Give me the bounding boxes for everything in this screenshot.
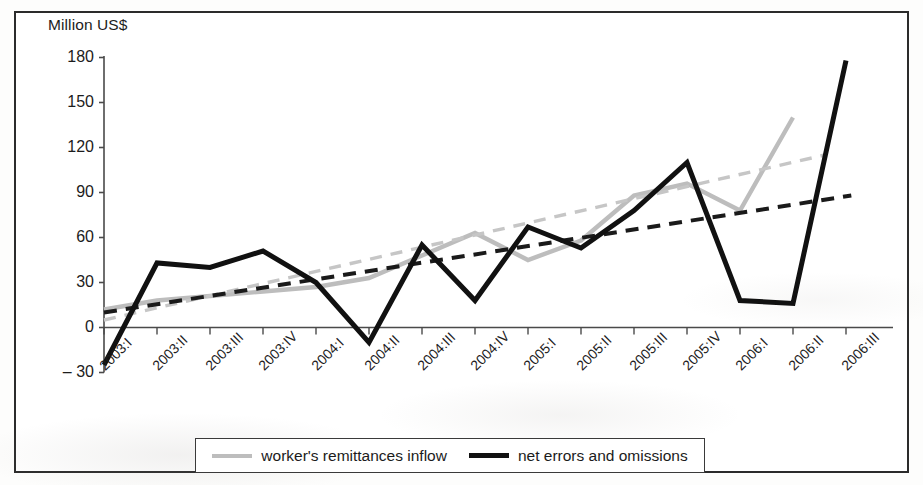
y-tick-label: 0 [36, 318, 94, 336]
legend-label: net errors and omissions [518, 447, 688, 465]
y-tick-label: 120 [36, 138, 94, 156]
y-tick-label: 150 [36, 93, 94, 111]
y-tick-label: – 30 [36, 363, 94, 381]
legend-swatch-net-errors [469, 453, 509, 458]
legend-label: worker's remittances inflow [261, 447, 447, 465]
series-0 [104, 118, 793, 310]
y-tick-label: 60 [36, 228, 94, 246]
legend-entry: worker's remittances inflow [212, 447, 447, 465]
chart-legend: worker's remittances inflownet errors an… [195, 438, 705, 473]
x-axis-ticks [104, 328, 846, 335]
legend-swatch-remittances [212, 454, 252, 458]
y-tick-label: 30 [36, 273, 94, 291]
legend-entry: net errors and omissions [469, 447, 688, 465]
plot-area [0, 0, 923, 485]
chart-page: Million US$ 1801501209060300– 30 2003:I2… [0, 0, 923, 485]
y-tick-label: 90 [36, 183, 94, 201]
y-tick-label: 180 [36, 48, 94, 66]
axis-lines [104, 56, 893, 373]
